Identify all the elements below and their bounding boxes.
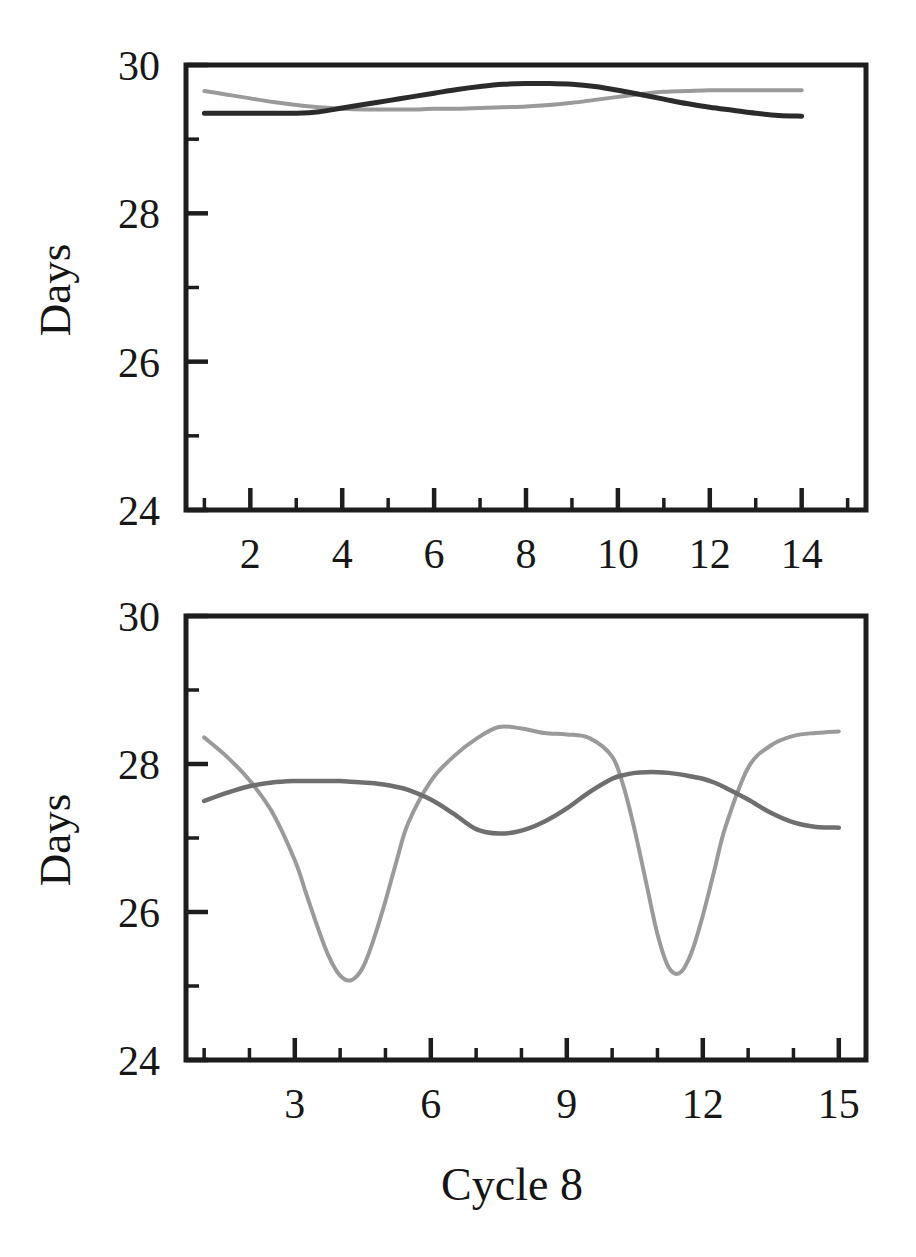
x-tick-label: 2 [240, 531, 261, 577]
figure-container: 24262830 2468101214 Days 24262830 369121… [0, 0, 916, 1257]
x-tick-label: 4 [332, 531, 353, 577]
y-tick-label: 30 [118, 43, 160, 89]
x-tick-label: 15 [818, 1081, 860, 1127]
bottom-panel-light-trace [204, 726, 839, 980]
x-tick-label: 6 [424, 531, 445, 577]
y-tick-label: 24 [118, 1038, 160, 1084]
y-tick-label: 26 [118, 890, 160, 936]
x-tick-label: 14 [781, 531, 823, 577]
y-tick-label: 28 [118, 191, 160, 237]
bottom-panel-x-ticklabels: 3691215 [284, 1081, 860, 1127]
x-tick-label: 9 [556, 1081, 577, 1127]
top-panel-y-ticklabels: 24262830 [118, 43, 160, 534]
x-tick-label: 3 [284, 1081, 305, 1127]
chart-svg: 24262830 2468101214 Days 24262830 369121… [0, 0, 916, 1257]
top-panel-x-ticks [204, 488, 847, 510]
bottom-panel-series [204, 726, 839, 980]
top-panel-frame [186, 65, 866, 510]
top-panel-y-ticks [186, 65, 208, 510]
bottom-panel-y-axis-title: Days [30, 794, 80, 886]
bottom-panel-x-axis-title: Cycle 8 [441, 1159, 583, 1210]
bottom-panel-x-ticks [204, 1038, 839, 1060]
top-panel: 24262830 2468101214 Days [30, 43, 866, 577]
bottom-panel: 24262830 3691215 Days Cycle 8 [30, 594, 866, 1210]
bottom-panel-frame [186, 616, 866, 1060]
x-tick-label: 6 [420, 1081, 441, 1127]
bottom-panel-y-ticklabels: 24262830 [118, 594, 160, 1084]
top-panel-series [204, 83, 801, 116]
y-tick-label: 30 [118, 594, 160, 640]
y-tick-label: 24 [118, 488, 160, 534]
y-tick-label: 26 [118, 340, 160, 386]
x-tick-label: 10 [597, 531, 639, 577]
x-tick-label: 8 [516, 531, 537, 577]
bottom-panel-y-ticks [186, 616, 208, 1060]
top-panel-y-axis-title: Days [30, 244, 80, 336]
top-panel-x-ticklabels: 2468101214 [240, 531, 823, 577]
x-tick-label: 12 [682, 1081, 724, 1127]
y-tick-label: 28 [118, 742, 160, 788]
x-tick-label: 12 [689, 531, 731, 577]
